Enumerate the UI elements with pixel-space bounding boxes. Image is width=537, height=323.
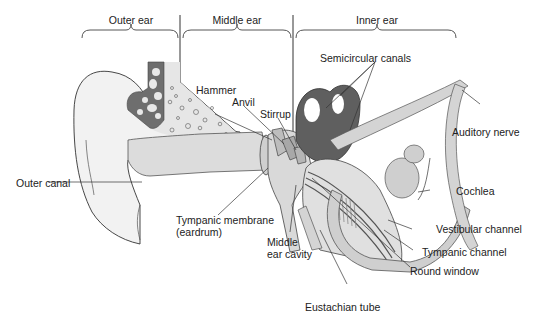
label-tympanic-channel: Tympanic channel [422, 246, 507, 258]
outer-canal [128, 132, 268, 176]
section-label-inner-ear: Inner ear [356, 14, 398, 26]
section-label-outer-ear: Outer ear [109, 14, 153, 26]
label-round-window: Round window [410, 265, 479, 277]
label-vestibular-channel: Vestibular channel [436, 223, 522, 235]
cochlea-section-large [385, 158, 419, 198]
section-label-middle-ear: Middle ear [212, 14, 261, 26]
label-auditory-nerve: Auditory nerve [452, 126, 520, 138]
label-cochlea: Cochlea [456, 185, 495, 197]
label-outer-canal: Outer canal [16, 177, 70, 189]
label-hammer: Hammer [196, 84, 236, 96]
cochlea-section-small [404, 145, 424, 163]
inner-ear-bracket [296, 24, 456, 38]
middle-ear-bracket [183, 24, 291, 38]
label-stirrup: Stirrup [260, 108, 291, 120]
label-middle-ear-cavity-line2: ear cavity [267, 248, 312, 260]
semicircular-canals [296, 85, 360, 162]
label-middle-ear-cavity: Middle [267, 236, 298, 248]
label-tympanic-membrane: Tympanic membrane [176, 214, 274, 226]
ear-anatomy-diagram: Outer ear Middle ear Inner ear Hammer An… [0, 0, 537, 323]
label-anvil: Anvil [232, 96, 255, 108]
label-eustachian-tube: Eustachian tube [305, 301, 380, 313]
section-brackets [82, 24, 456, 38]
outer-ear-bracket [82, 24, 178, 38]
label-tympanic-membrane-eardrum: (eardrum) [176, 226, 222, 238]
label-semicircular-canals: Semicircular canals [320, 52, 411, 64]
